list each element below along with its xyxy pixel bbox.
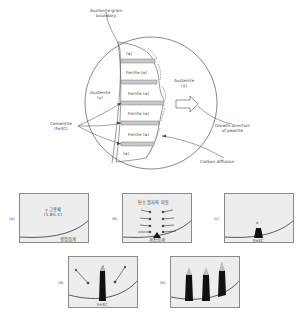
cementite-label: Cementite (Fe3C) bbox=[50, 121, 72, 131]
panel-c-label: (c) bbox=[214, 216, 219, 221]
panel-e-label: (e) bbox=[160, 280, 166, 285]
panel-a-label: (a) bbox=[9, 216, 15, 221]
carbon-content-label: (1.8% C) bbox=[44, 212, 62, 217]
pearlite-colonies bbox=[171, 257, 240, 308]
panel-d-label: (d) bbox=[58, 280, 64, 285]
grain-boundary-label: Austenite grain boundary bbox=[90, 8, 122, 18]
alpha-mark: α bbox=[256, 221, 258, 226]
panel-b: 탄소 원자의 이동 결정립계 bbox=[122, 193, 192, 243]
pearlite-schematic bbox=[0, 0, 304, 190]
lamella-label: Ferrite (α) bbox=[128, 91, 149, 96]
panel-e bbox=[170, 256, 240, 308]
panel-a: γ 고용체 (1.8% C) 결정립계 bbox=[19, 193, 89, 243]
carbon-migration-label: 탄소 원자의 이동 bbox=[138, 200, 169, 205]
fe3c-label: Fe3C bbox=[97, 302, 107, 307]
panel-c: α Fe3C bbox=[224, 193, 294, 243]
lamella-label: Ferrite (α) bbox=[128, 132, 149, 137]
cementite-nucleus bbox=[225, 194, 294, 243]
grain-boundary-label: 결정립계 bbox=[60, 237, 76, 242]
lamella-label: Ferrite (α) bbox=[126, 70, 147, 75]
cementite-growth bbox=[69, 257, 138, 308]
carbon-diffusion-label: Carbon diffusion bbox=[200, 159, 234, 164]
austenite-right-label: Austenite (γ) bbox=[174, 78, 194, 88]
austenite-left-label: Austenite (γ) bbox=[90, 90, 110, 100]
grain-boundary-curve bbox=[20, 194, 89, 243]
fe3c-label: Fe3C bbox=[253, 238, 263, 243]
growth-direction-label: Growth direction of pearlite bbox=[215, 123, 250, 133]
lamella-label: (α) bbox=[126, 51, 132, 56]
panel-d: Fe3C bbox=[68, 256, 138, 308]
panel-b-label: (b) bbox=[112, 216, 118, 221]
lamella-label: (α) bbox=[123, 151, 129, 156]
lamella-label: Ferrite (α) bbox=[128, 111, 149, 116]
grain-boundary-label: 결정립계 bbox=[149, 238, 165, 243]
